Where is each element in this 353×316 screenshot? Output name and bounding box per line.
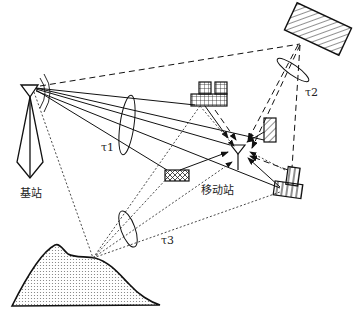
distant-reflector [284,3,351,56]
reflector-paths [40,44,300,170]
building-cluster-grid [191,82,227,106]
tau1-ellipse [116,94,138,155]
tau1-label: τ1 [101,141,114,154]
mobile-station-label: 移动站 [201,181,234,197]
direct-scatter-paths [36,88,280,188]
building-cluster-vertical [273,165,305,199]
base-station-label: 基站 [20,184,42,200]
tau3-ellipse [115,209,141,249]
hill [12,245,160,306]
mobile-station-antenna [231,145,245,170]
tau2-label: τ2 [305,86,318,99]
tau3-label: τ3 [161,234,174,247]
scatterer-block [165,170,189,181]
multipath-diagram: 基站 移动站 τ1 τ2 τ3 [0,0,353,316]
small-building-right [264,118,276,142]
tau2-ellipse [275,55,312,85]
